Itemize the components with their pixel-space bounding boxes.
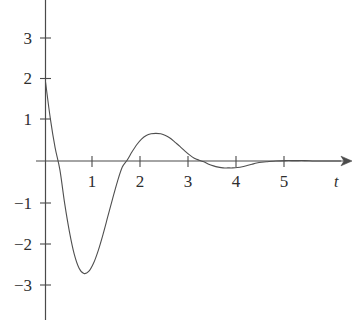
x-tick-label-5: 5 [272,173,296,190]
x-tick-label-1: 1 [80,173,104,190]
x-tick-label-4: 4 [224,173,248,190]
y-tick-label-3: 3 [8,30,32,47]
x-tick-label-3: 3 [176,173,200,190]
plot-area [0,0,357,320]
y-tick-label-minus-3: −3 [2,277,32,294]
x-tick-label-2: 2 [128,173,152,190]
x-axis-label: t [334,174,338,190]
y-tick-label-minus-2: −2 [2,236,32,253]
y-tick-label-2: 2 [8,70,32,87]
y-tick-label-1: 1 [8,111,32,128]
y-tick-label-minus-1: −1 [2,195,32,212]
chart-figure: 3 2 1 −1 −2 −3 1 2 3 4 5 t [0,0,357,320]
